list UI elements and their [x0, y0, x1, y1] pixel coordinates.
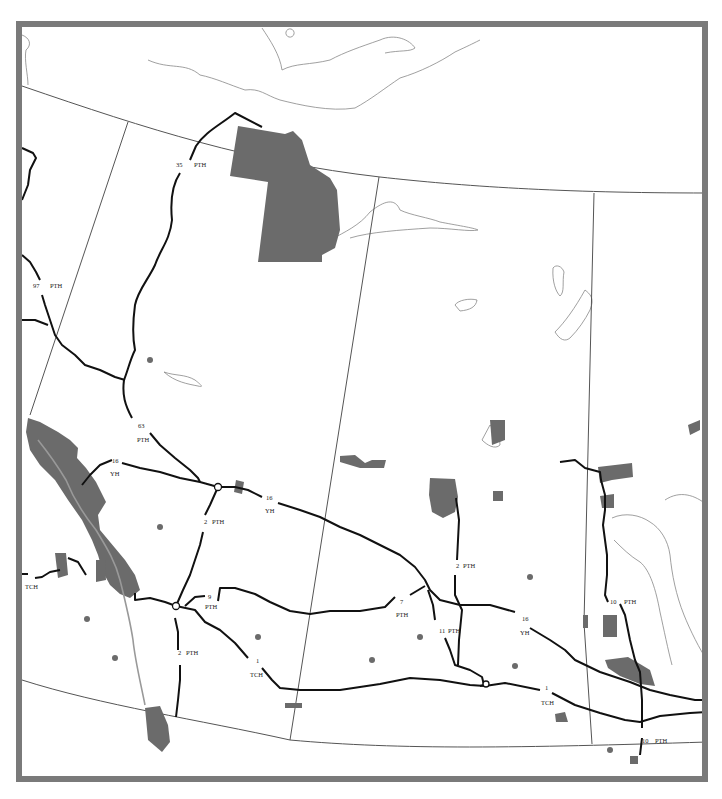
junction-marker	[483, 681, 489, 687]
highway-number-label: 16	[112, 457, 119, 464]
highway-number-label: 10	[642, 737, 649, 744]
highway-number-label: 35	[176, 161, 183, 168]
junction-marker	[173, 603, 180, 610]
highway-number-label: 16	[522, 615, 529, 622]
highway-type-label: TCH	[250, 671, 263, 678]
highway-number-label: 97	[33, 282, 40, 289]
map-canvas: 35PTH97PTH63PTH16YH16YH2PTH2PTH2PTH9PTH7…	[0, 0, 722, 799]
highway-type-label: YH	[265, 507, 275, 514]
highway-number-label: 2	[178, 649, 181, 656]
highway-type-label: PTH	[448, 627, 461, 634]
highway-number-label: 16	[266, 494, 273, 501]
highway-type-label: PTH	[186, 649, 199, 656]
highway-number-label: 1	[256, 657, 259, 664]
highway-number-label: 1	[545, 684, 548, 691]
highway-number-label: 2	[456, 562, 459, 569]
highway-type-label: PTH	[463, 562, 476, 569]
highway-type-label: YH	[520, 629, 530, 636]
highway-number-label: 11	[439, 627, 445, 634]
highway-type-label: PTH	[396, 611, 409, 618]
junction-marker	[215, 484, 222, 491]
highway-type-label: PTH	[137, 436, 150, 443]
highway-type-label: PTH	[205, 603, 218, 610]
highway-type-label: TCH	[25, 583, 38, 590]
highway-number-label: 10	[610, 598, 617, 605]
highway-number-label: 63	[138, 422, 145, 429]
highway-type-label: PTH	[212, 518, 225, 525]
highway-number-label: 2	[204, 518, 207, 525]
highway-type-label: PTH	[624, 598, 637, 605]
highway-type-label: TCH	[541, 699, 554, 706]
highway-type-label: PTH	[194, 161, 207, 168]
highway-type-label: PTH	[655, 737, 668, 744]
highway-type-label: PTH	[50, 282, 63, 289]
highway-number-label: 9	[208, 593, 211, 600]
highway-type-label: YH	[110, 470, 120, 477]
